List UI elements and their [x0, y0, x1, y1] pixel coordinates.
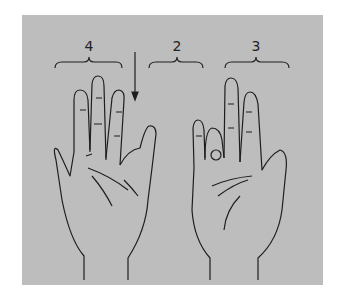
group-label-3: 3 [252, 38, 261, 54]
group-label-4: 4 [85, 38, 94, 54]
group-label-2: 2 [173, 38, 182, 54]
figure-panel [0, 0, 338, 307]
gray-background [22, 15, 323, 145]
gray-background-lower [22, 140, 323, 285]
